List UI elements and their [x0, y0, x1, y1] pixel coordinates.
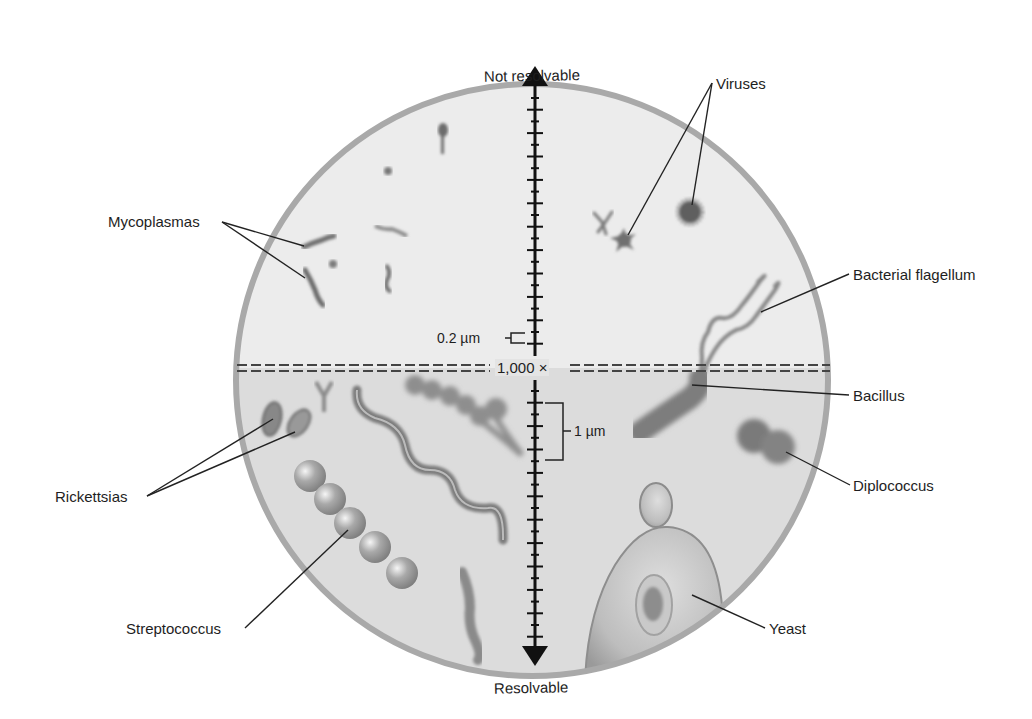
- label-rickettsias: Rickettsias: [55, 488, 128, 505]
- tiny-particle-icon: [384, 167, 392, 175]
- resolvable-label: Resolvable: [494, 678, 569, 696]
- not-resolvable-label: Not resolvable: [484, 66, 580, 85]
- scale-small-label: 0.2 µm: [437, 330, 480, 347]
- magnification-label: 1,000 ×: [495, 359, 549, 376]
- label-bacillus: Bacillus: [853, 387, 905, 404]
- label-streptococcus: Streptococcus: [126, 620, 221, 637]
- microscope-resolution-diagram: Not resolvable Resolvable 1,000 × 0.2 µm…: [0, 0, 1032, 719]
- label-mycoplasmas: Mycoplasmas: [108, 213, 200, 230]
- label-yeast: Yeast: [769, 620, 806, 637]
- mycoplasma-dot-icon: [329, 260, 337, 268]
- label-diplococcus: Diplococcus: [853, 477, 934, 494]
- label-viruses: Viruses: [716, 75, 766, 92]
- scale-large-label: 1 µm: [574, 423, 605, 440]
- label-bacterial-flagellum: Bacterial flagellum: [853, 266, 976, 283]
